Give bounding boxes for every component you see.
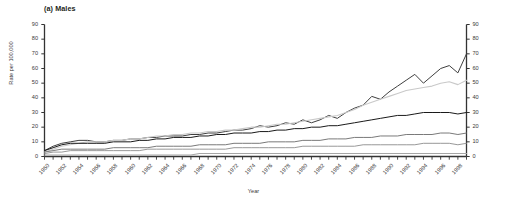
y-tick-label-right: 80 xyxy=(473,36,479,42)
y-tick-label-right: 20 xyxy=(473,124,479,130)
series-line-2 xyxy=(45,80,467,152)
axes xyxy=(41,25,469,160)
y-tick-label-right: 70 xyxy=(473,51,479,57)
y-tick-label-right: 40 xyxy=(473,95,479,101)
y-tick-label-right: 90 xyxy=(473,22,479,28)
series-line-1 xyxy=(45,54,467,151)
chart-figure: (a) Males Rate per 100,000 Year 01020304… xyxy=(0,0,507,212)
y-tick-label-left: 40 xyxy=(8,95,38,101)
y-tick-label-left: 30 xyxy=(8,110,38,116)
y-tick-label-left: 70 xyxy=(8,51,38,57)
series-line-6 xyxy=(45,154,467,155)
y-tick-label-left: 60 xyxy=(8,66,38,72)
y-tick-label-left: 20 xyxy=(8,124,38,130)
y-tick-label-left: 50 xyxy=(8,80,38,86)
y-tick-label-left: 10 xyxy=(8,139,38,145)
y-tick-label-right: 0 xyxy=(473,154,476,160)
y-tick-label-right: 30 xyxy=(473,110,479,116)
y-tick-label-right: 60 xyxy=(473,66,479,72)
y-tick-label-right: 10 xyxy=(473,139,479,145)
y-tick-label-left: 0 xyxy=(8,154,38,160)
y-tick-label-right: 50 xyxy=(473,80,479,86)
y-tick-label-left: 80 xyxy=(8,36,38,42)
series-lines xyxy=(45,54,467,155)
y-tick-label-left: 90 xyxy=(8,22,38,28)
